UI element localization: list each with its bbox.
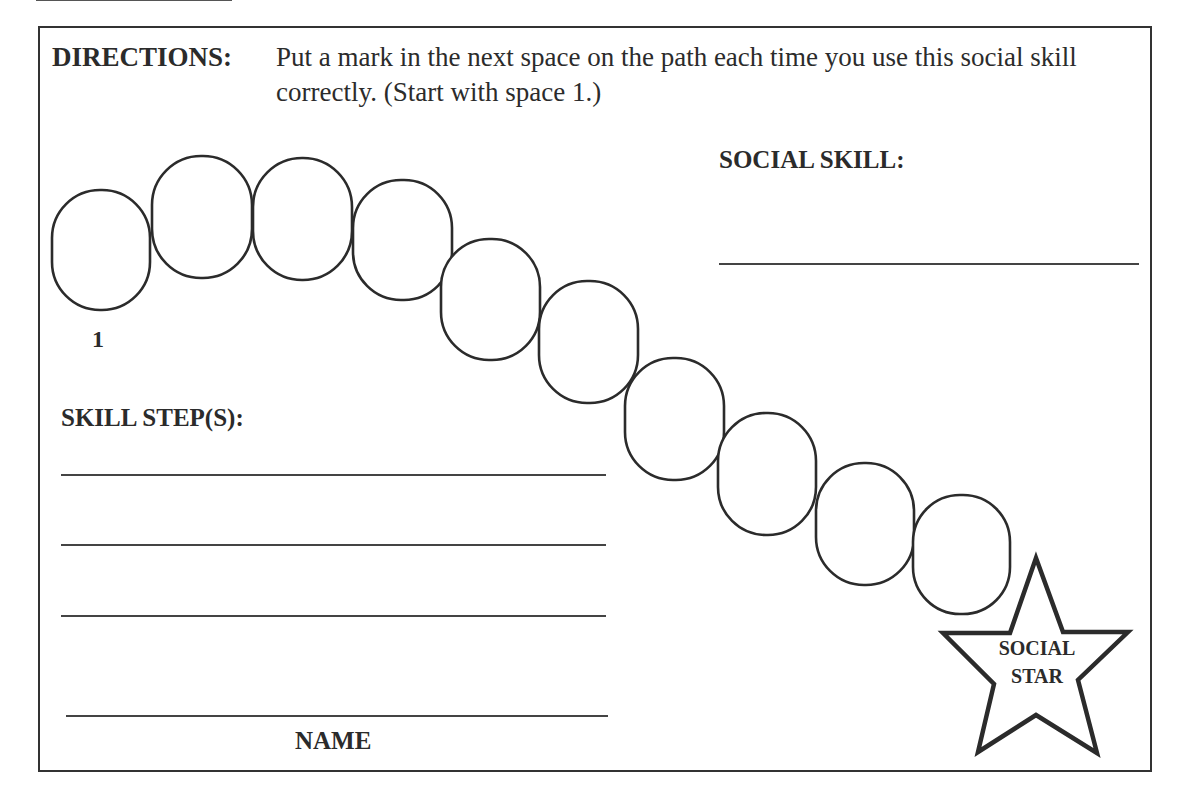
skill-steps-label: SKILL STEP(S):: [61, 404, 244, 432]
path-space-1[interactable]: [52, 190, 150, 310]
social-skill-label: SOCIAL SKILL:: [719, 146, 905, 174]
path-space-4[interactable]: [353, 180, 452, 300]
skill-step-line-2[interactable]: [61, 544, 606, 546]
name-input-line[interactable]: [66, 715, 608, 717]
goal-star-line2: STAR: [977, 662, 1097, 690]
path-space-7[interactable]: [625, 358, 724, 480]
skill-step-line-3[interactable]: [61, 615, 606, 617]
path-space-2[interactable]: [152, 156, 252, 278]
path-space-3[interactable]: [253, 158, 352, 280]
name-label: NAME: [295, 727, 371, 755]
skill-step-line-1[interactable]: [61, 474, 606, 476]
goal-star-label: SOCIAL STAR: [977, 634, 1097, 690]
path-space-10[interactable]: [913, 495, 1010, 614]
goal-star-line1: SOCIAL: [977, 634, 1097, 662]
start-space-number: 1: [92, 326, 104, 353]
path-space-8[interactable]: [718, 413, 816, 535]
path-space-5[interactable]: [441, 239, 540, 360]
path-space-9[interactable]: [816, 463, 914, 585]
social-skill-input-line[interactable]: [719, 263, 1139, 265]
path-space-6[interactable]: [539, 281, 638, 403]
